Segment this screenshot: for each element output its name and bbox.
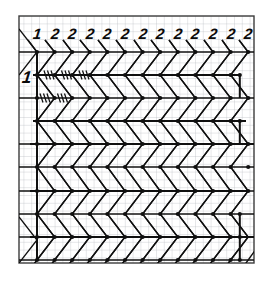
column-header-10: 2 [208,26,218,41]
column-header-3: 2 [85,26,95,41]
column-header-1: 2 [50,26,60,41]
figure-root: 1222222222222 1 [0,0,272,284]
column-header-5: 2 [120,26,130,41]
lattice-figure [0,0,272,284]
column-header-0: 1 [32,26,42,41]
row-label-1: 1 [21,69,32,86]
column-header-6: 2 [138,26,148,41]
column-header-8: 2 [173,26,183,41]
column-header-11: 2 [226,26,236,41]
